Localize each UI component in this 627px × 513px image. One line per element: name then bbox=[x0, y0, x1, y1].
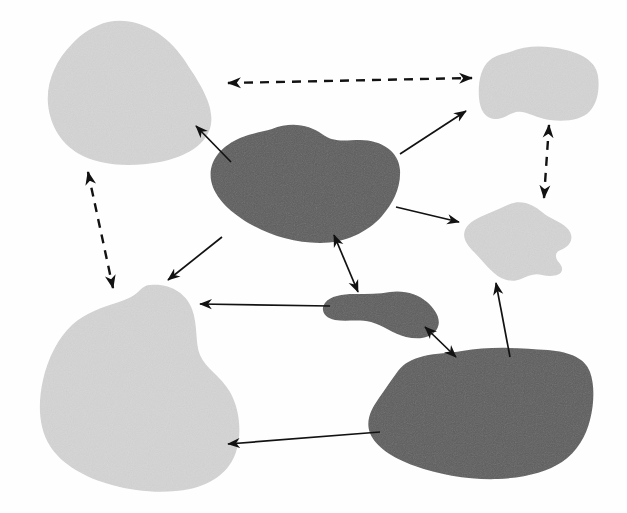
blob-network-diagram bbox=[0, 0, 627, 513]
patch-bottom-right-dark[interactable] bbox=[368, 348, 593, 479]
diagram-canvas bbox=[0, 0, 627, 513]
patch-top-right[interactable] bbox=[479, 47, 599, 121]
